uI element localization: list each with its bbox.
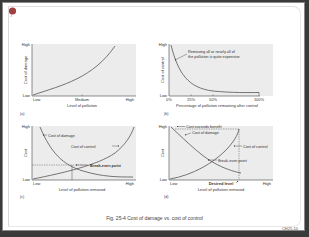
panel-b-annotation-line-2: the pollution is quite expensive xyxy=(188,55,240,59)
panel-c-y-tick-high: High xyxy=(22,124,30,129)
panel-d-control-label: Cost of control xyxy=(243,145,268,149)
panel-c-y-tick-low: Low xyxy=(23,177,30,182)
panel-d: Cost exceeds benefit Cost of damage Cost… xyxy=(159,124,273,199)
panel-b-x-label: Percentage of pollution remaining after … xyxy=(176,103,258,108)
panel-a-x-tick-low: Low xyxy=(33,97,40,102)
panel-d-y-label: Cost xyxy=(160,148,165,157)
panel-a-label: (a) xyxy=(20,112,24,116)
panel-b-x-tick-label-100: 100% xyxy=(254,97,265,102)
panel-c-damage-label: Cost of damage xyxy=(48,134,75,138)
panel-a-y-tick-high: High xyxy=(22,42,30,47)
panel-d-breakeven-label: Break-even point xyxy=(218,159,248,163)
panel-d-desired-arrow xyxy=(236,181,238,183)
panel-b: Removing all or nearly all of the pollut… xyxy=(159,42,273,116)
slide: High Low Low Medium High Level of pollut… xyxy=(2,2,305,231)
panel-b-x-tick-label-50: 50% xyxy=(209,97,217,102)
panel-b-annotation-line-1: Removing all or nearly all of xyxy=(188,50,236,54)
panel-c-y-label: Cost xyxy=(23,148,28,157)
panel-d-label: (d) xyxy=(164,195,168,199)
panel-d-x-label: Level of pollution removed xyxy=(198,187,245,192)
panel-d-desired-level-label: Desired level xyxy=(209,181,234,186)
panel-c-control-label: Cost of control xyxy=(71,145,96,149)
panel-a-x-tick-medium: Medium xyxy=(75,97,90,102)
panel-a-y-tick-low: Low xyxy=(23,93,30,98)
panel-d-y-tick-high: High xyxy=(159,124,167,129)
panel-a-y-label: Cost of damage xyxy=(23,55,28,84)
panel-d-y-tick-low: Low xyxy=(160,177,167,182)
panel-b-y-label: Cost of control xyxy=(160,57,165,83)
panel-c: Cost of damage Cost of control Break-eve… xyxy=(20,124,136,199)
panel-c-breakeven-label: Break-even point xyxy=(90,164,122,168)
panel-d-damage-label: Cost of damage xyxy=(192,131,219,135)
panel-b-x-tick-label-25: 25% xyxy=(187,97,195,102)
panel-a: High Low Low Medium High Level of pollut… xyxy=(20,42,136,116)
figure-caption: Fig. 25-4 Cost of damage vs. cost of con… xyxy=(3,215,306,221)
panel-b-y-tick-high: High xyxy=(159,42,167,47)
panel-b-x-tick-label-0: 0% xyxy=(166,97,172,102)
panel-a-x-label: Level of pollution xyxy=(67,103,97,108)
panel-c-x-tick-low: Low xyxy=(33,181,40,186)
panel-c-x-label: Level of pollution removed xyxy=(59,187,106,192)
panel-d-x-tick-high: High xyxy=(263,181,271,186)
panel-c-x-tick-high: High xyxy=(126,181,134,186)
panel-a-x-tick-high: High xyxy=(126,97,134,102)
figure: High Low Low Medium High Level of pollut… xyxy=(3,3,306,232)
panel-d-x-tick-low: Low xyxy=(170,181,177,186)
panel-d-exceeds-label: Cost exceeds benefit xyxy=(186,125,222,129)
slide-code: CH25-10 xyxy=(282,226,298,231)
panel-b-label: (b) xyxy=(164,112,168,116)
panel-c-label: (c) xyxy=(20,195,24,199)
panel-d-plot-area xyxy=(169,126,273,180)
panel-a-plot-area xyxy=(32,44,136,96)
